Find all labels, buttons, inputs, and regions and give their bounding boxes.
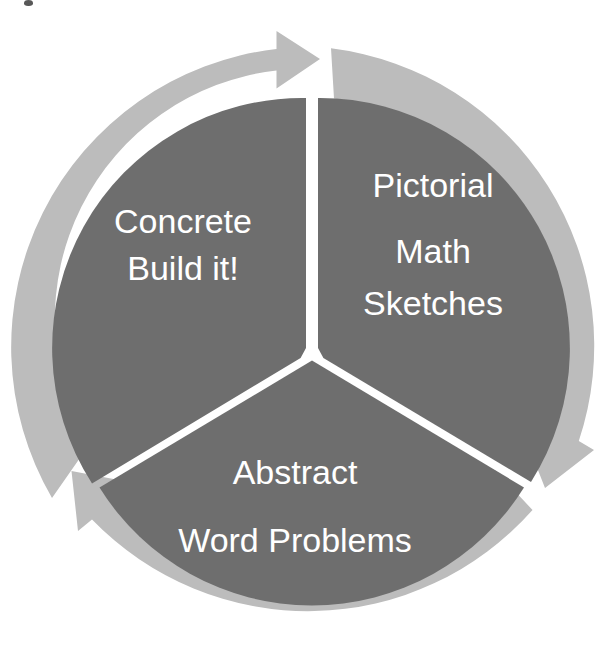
cycle-diagram-canvas: Concrete Build it! Pictorial Math Sketch… — [0, 0, 611, 652]
segment-pictorial-label-line1: Pictorial — [373, 166, 494, 204]
scan-artifact-mark — [24, 0, 33, 6]
segment-pictorial-label-line2: Math — [395, 232, 471, 270]
segment-pictorial-label-line3: Sketches — [363, 284, 503, 322]
segment-concrete-label-line1: Concrete — [114, 202, 252, 240]
segment-abstract-label-line2: Word Problems — [178, 521, 412, 559]
segment-concrete-label-line2: Build it! — [127, 249, 239, 287]
segment-abstract-label-line1: Abstract — [233, 453, 358, 491]
cycle-diagram: Concrete Build it! Pictorial Math Sketch… — [0, 0, 611, 652]
